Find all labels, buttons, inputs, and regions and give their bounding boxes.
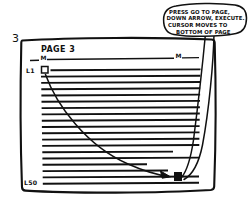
callout-line-4: BOTTOM OF PAGE [176,29,231,35]
cursor-start-open-square[interactable] [42,67,49,74]
hand-drawn-illustration: 3 PAGE 3 M M L1 L50 [0,0,251,211]
callout-line-2: DOWN ARROW, EXECUTE. [167,15,245,21]
margin-marker-left: M [41,54,47,61]
margin-ruler-middle-segment [47,58,174,59]
callout-line-1: PRESS GO TO PAGE, [169,9,230,15]
page-title: PAGE 3 [41,45,75,54]
callout-leader-line-outer [182,34,206,178]
line-label-last: L50 [24,179,38,186]
cursor-end-filled-square[interactable] [175,173,182,181]
page-body-lines [41,69,201,183]
margin-marker-right: M [176,52,182,59]
callout-line-3: CURSOR MOVES TO [168,22,228,28]
cursor-motion-arrowhead [161,171,171,178]
line-label-first: L1 [26,67,35,74]
figure-number: 3 [12,32,19,45]
figure-container: 3 PAGE 3 M M L1 L50 [0,0,251,211]
